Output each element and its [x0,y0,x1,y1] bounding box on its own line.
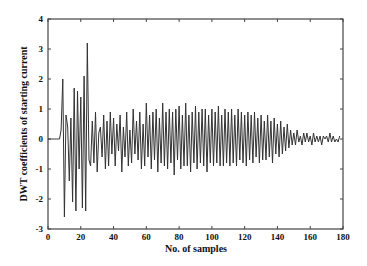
y-tick-label: 3 [39,44,44,54]
series-line [48,43,340,217]
x-tick-label: 120 [238,232,252,242]
x-tick-label: 60 [142,232,152,242]
y-tick-label: 2 [39,74,44,84]
x-tick-label: 0 [46,232,51,242]
series-layer [48,43,340,217]
y-axis-label: DWT coefficients of starting current [18,46,29,202]
x-axis-label: No. of samples [165,243,227,254]
y-tick-label: -2 [36,194,44,204]
x-tick-label: 20 [76,232,86,242]
y-tick-label: 0 [39,134,44,144]
y-tick-label: 1 [39,104,44,114]
y-tick-label: 4 [39,14,44,24]
x-tick-label: 40 [109,232,119,242]
x-tick-label: 100 [205,232,219,242]
x-tick-label: 140 [271,232,285,242]
y-tick-label: -3 [36,224,44,234]
x-tick-label: 80 [175,232,185,242]
y-tick-label: -1 [36,164,44,174]
x-tick-label: 180 [336,232,350,242]
x-tick-label: 160 [303,232,317,242]
line-chart: 020406080100120140160180 -3-2-101234 No.… [0,0,367,266]
